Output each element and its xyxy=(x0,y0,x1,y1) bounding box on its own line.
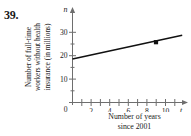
y-axis-variable-n: n xyxy=(64,5,68,14)
trend-line xyxy=(73,35,183,59)
x-axis-arrowhead xyxy=(182,100,188,105)
y-tick-label-10: 10 xyxy=(60,75,68,84)
x-axis-title-line1: Number of years xyxy=(108,112,160,121)
line-chart-svg: n t 0 10 20 30 xyxy=(58,2,191,112)
data-point-marker xyxy=(154,40,158,44)
y-axis-title: Number of full-time workers without heal… xyxy=(17,1,59,113)
y-tick-label-0: 0 xyxy=(64,105,68,112)
y-axis-arrowhead xyxy=(70,7,75,13)
x-axis-title: Number of years since 2001 xyxy=(82,112,187,132)
y-tick-label-20: 20 xyxy=(60,51,68,60)
figure-container: 39. Number of full-time workers without … xyxy=(0,0,191,136)
chart-plot-area: n t 0 10 20 30 xyxy=(58,2,191,112)
y-tick-label-30: 30 xyxy=(60,28,68,37)
x-axis-title-line2: since 2001 xyxy=(82,122,187,132)
